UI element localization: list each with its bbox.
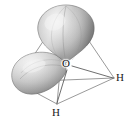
edge-right-bottom <box>57 78 114 104</box>
orbital-diagram: O H H <box>0 0 130 125</box>
lone-pair-lobe-left <box>12 52 66 94</box>
atom-label-hydrogen-bottom: H <box>52 107 60 118</box>
lobe-left-sheen <box>12 52 66 94</box>
atom-label-hydrogen-right: H <box>116 72 124 83</box>
atom-label-oxygen: O <box>62 58 70 69</box>
